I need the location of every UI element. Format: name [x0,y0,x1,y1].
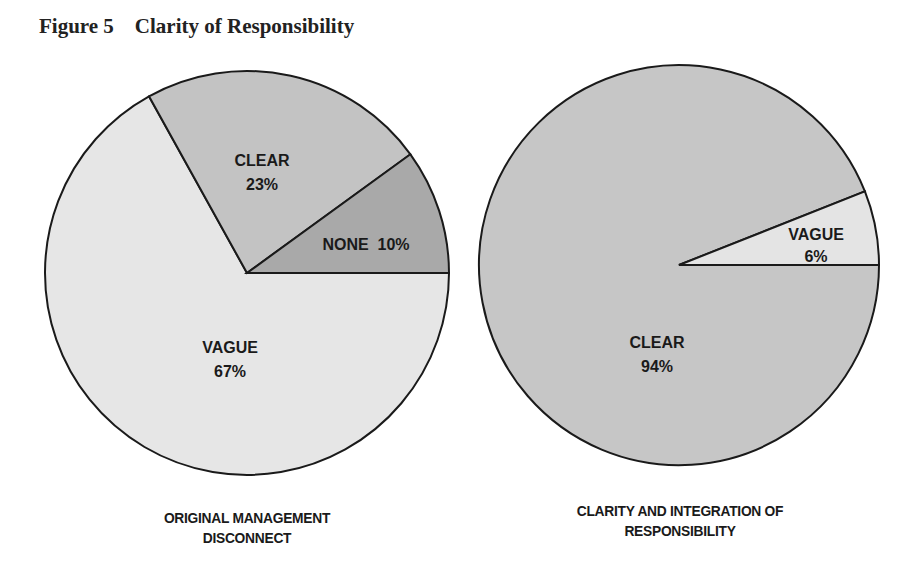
caption-line-1: ORIGINAL MANAGEMENT [109,508,385,528]
caption-line-2: RESPONSIBILITY [542,521,818,541]
value-vague: 6% [804,248,827,265]
value-vague: 67% [214,363,246,380]
label-vague: VAGUE [788,226,844,243]
chart-caption-right: CLARITY AND INTEGRATION OF RESPONSIBILIT… [542,501,818,541]
chart-caption-left: ORIGINAL MANAGEMENT DISCONNECT [109,508,385,548]
pie-chart-clarity-integration: VAGUE 6% CLEAR 94% [479,65,879,465]
label-clear: CLEAR [629,334,685,351]
caption-line-1: CLARITY AND INTEGRATION OF [542,501,818,521]
pie-chart-original-management: CLEAR 23% NONE 10% VAGUE 67% [45,71,449,475]
label-vague: VAGUE [202,339,258,356]
value-clear: 23% [246,176,278,193]
pie-charts: CLEAR 23% NONE 10% VAGUE 67% VAGUE 6% CL… [0,0,917,580]
label-none: NONE 10% [322,236,409,253]
caption-line-2: DISCONNECT [109,528,385,548]
value-clear: 94% [641,358,673,375]
label-clear: CLEAR [234,152,290,169]
